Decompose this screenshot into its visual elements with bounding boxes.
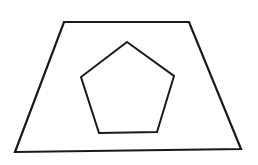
diagram-canvas — [0, 0, 258, 165]
geometry-diagram — [0, 0, 258, 165]
pentagon-shape — [81, 42, 174, 133]
